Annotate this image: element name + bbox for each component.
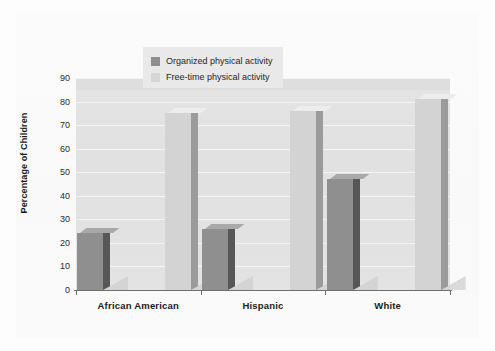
bar-side-face [353, 176, 360, 290]
legend-item-organized: Organized physical activity [151, 54, 273, 68]
y-axis-title: Percentage of Children [19, 93, 29, 233]
gridline [76, 266, 450, 267]
x-axis-tick [325, 290, 326, 295]
bar [290, 111, 316, 290]
bar-side-face [316, 107, 323, 290]
y-axis-tick-label: 0 [50, 286, 70, 295]
y-axis-tick-label: 80 [50, 98, 70, 107]
y-axis-tick-label: 50 [50, 168, 70, 177]
bar-chart: 0102030405060708090 Percentage of Childr… [0, 0, 495, 351]
legend-label-organized: Organized physical activity [166, 56, 273, 66]
gridline [76, 196, 450, 197]
gridline [76, 149, 450, 150]
legend-label-free-time: Free-time physical activity [166, 72, 270, 82]
chart-legend: Organized physical activity Free-time ph… [143, 47, 283, 88]
x-axis-tick [450, 290, 451, 295]
bar-front-face [415, 99, 441, 290]
y-axis-tick-label: 90 [50, 74, 70, 83]
page-background: 0102030405060708090 Percentage of Childr… [0, 0, 495, 351]
bar-top-face [418, 94, 457, 99]
gridline [76, 172, 450, 173]
bar-side-face [441, 95, 448, 290]
y-axis-tick-label: 10 [50, 262, 70, 271]
bar [165, 113, 191, 290]
bar-side-face [103, 230, 110, 290]
legend-swatch-organized [151, 57, 160, 66]
y-axis-tick-label: 20 [50, 239, 70, 248]
bar-front-face [165, 113, 191, 290]
legend-item-free-time: Free-time physical activity [151, 70, 270, 84]
x-axis-line [74, 290, 452, 291]
bar-top-face [330, 174, 369, 179]
x-axis-tick [201, 290, 202, 295]
bar-front-face [327, 179, 353, 290]
gridline [76, 125, 450, 126]
plot-area [76, 78, 450, 290]
bar [327, 179, 353, 290]
y-axis-tick-label: 40 [50, 192, 70, 201]
x-axis-category-label: African American [76, 300, 201, 311]
bar-front-face [202, 229, 228, 290]
x-axis-category-label: Hispanic [201, 300, 326, 311]
bar-top-face [168, 108, 207, 113]
bar-front-face [77, 233, 103, 290]
bar [77, 233, 103, 290]
y-axis-tick-label: 70 [50, 121, 70, 130]
bar [202, 229, 228, 290]
gridline [76, 219, 450, 220]
bar-front-face [290, 111, 316, 290]
bar-top-face [293, 106, 332, 111]
gridline [76, 102, 450, 103]
bar [415, 99, 441, 290]
x-axis-category-label: White [325, 300, 450, 311]
x-axis-tick [76, 290, 77, 295]
gridline [76, 243, 450, 244]
y-axis-tick-label: 60 [50, 145, 70, 154]
y-axis-tick-labels: 0102030405060708090 [48, 0, 70, 351]
bar-side-face [228, 225, 235, 290]
bar-top-face [205, 224, 244, 229]
bar-top-face [80, 228, 119, 233]
bar-side-face [191, 110, 198, 290]
y-axis-tick-label: 30 [50, 215, 70, 224]
legend-swatch-free-time [151, 73, 160, 82]
